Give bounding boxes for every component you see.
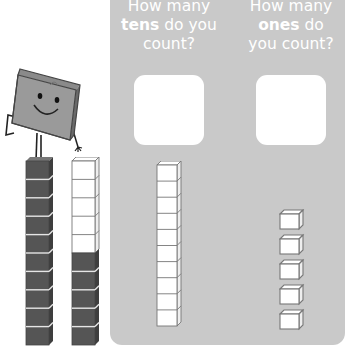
tens-question-line2: do you: [159, 16, 217, 34]
ones-question-line1: How many: [238, 0, 344, 16]
ones-keyword: ones: [258, 16, 299, 34]
tens-question-line3: count?: [116, 35, 222, 54]
ones-question-line3: you count?: [238, 35, 344, 54]
ones-question: How many ones do you count?: [238, 0, 344, 54]
tens-answer-box[interactable]: [134, 75, 204, 145]
dark-ten-tower: [24, 157, 54, 347]
ones-answer-box[interactable]: [256, 75, 326, 145]
tens-question: How many tens do you count?: [116, 0, 222, 54]
mixed-ten-tower: [70, 157, 100, 347]
tens-question-line1: How many: [116, 0, 222, 16]
tens-keyword: tens: [121, 16, 159, 34]
ones-question-line2: do: [300, 16, 324, 34]
ones-cubes: [279, 209, 305, 331]
tens-rod: [156, 161, 182, 327]
cube-character: [0, 55, 100, 165]
